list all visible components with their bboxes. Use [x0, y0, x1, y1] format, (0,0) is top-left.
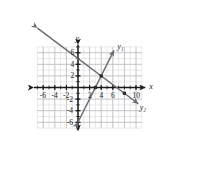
- coordinate-plane-svg: [0, 0, 213, 170]
- y-tick-label: 2: [70, 72, 74, 80]
- y-axis-label: y: [76, 35, 80, 43]
- x-tick-label: 2: [88, 92, 92, 100]
- graph-figure: -6-4-224610642-2-4-6 xy y₁y₂: [0, 0, 213, 170]
- x-tick-label: 6: [111, 92, 115, 100]
- x-axis-label: x: [149, 83, 153, 91]
- y-tick-label: 6: [70, 49, 74, 57]
- y-tick-label: -4: [67, 107, 73, 115]
- y-tick-label: 4: [70, 61, 74, 69]
- x-tick-label: 10: [133, 92, 141, 100]
- y2-point: [123, 92, 126, 95]
- intersection-point: [100, 74, 103, 77]
- x-tick-label: 4: [100, 92, 104, 100]
- x-tick-label: -6: [40, 92, 46, 100]
- y-tick-label: -2: [67, 96, 73, 104]
- y1-x-intercept-point: [94, 86, 97, 89]
- y-tick-label: -6: [67, 119, 73, 127]
- series-label-y1: y₁: [117, 43, 123, 51]
- series-label-y2: y₂: [140, 104, 146, 112]
- x-tick-label: -4: [51, 92, 57, 100]
